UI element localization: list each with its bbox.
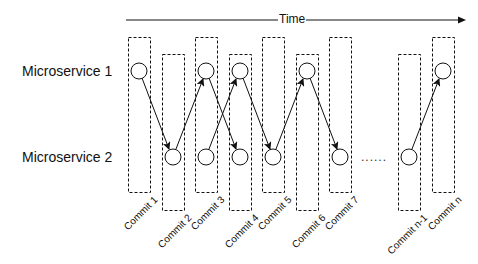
node-cn-ms1 [435, 63, 451, 79]
node-c5-ms2 [265, 149, 281, 165]
commit-box-n [433, 38, 455, 193]
commit-box-2 [163, 55, 185, 211]
commit-box-3 [196, 38, 218, 193]
node-c3-ms1 [198, 63, 214, 79]
commit-box-5 [263, 38, 285, 193]
edge-c1-c2 [142, 78, 169, 149]
node-c6-ms1 [299, 63, 315, 79]
commit-box-n-1 [399, 55, 421, 211]
edge-cn1-cn [412, 79, 439, 149]
edge-c4-c5 [243, 78, 270, 149]
commit-box-1 [129, 38, 151, 193]
time-arrowhead-icon [458, 17, 466, 24]
row-label-microservice-2: Microservice 2 [22, 149, 112, 165]
node-c1-ms1 [131, 63, 147, 79]
node-cn1-ms2 [401, 149, 417, 165]
edge-c6-c7 [310, 78, 337, 149]
row-label-microservice-1: Microservice 1 [22, 63, 112, 79]
node-c4-ms1 [232, 63, 248, 79]
time-axis-label: Time [278, 12, 306, 26]
node-c7-ms2 [332, 149, 348, 165]
node-c3-ms2 [198, 149, 214, 165]
commit-box-7 [330, 38, 352, 193]
edge-c5-c6 [276, 79, 303, 149]
node-c2-ms2 [165, 149, 181, 165]
ellipsis: ...... [361, 150, 387, 164]
node-c4-ms2 [232, 149, 248, 165]
edge-c2-c3 [176, 79, 203, 149]
